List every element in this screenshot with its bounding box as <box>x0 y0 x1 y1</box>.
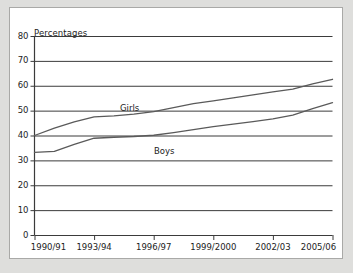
data-series-group <box>35 79 333 152</box>
x-axis-tick-label: 1993/94 <box>76 242 111 252</box>
y-axis-tick-label: 60 <box>9 80 29 90</box>
y-axis-tick-label: 80 <box>9 31 29 41</box>
y-axis-tick-label: 0 <box>9 230 29 240</box>
y-axis-tick-label: 30 <box>9 155 29 165</box>
x-axis-tick-label: 2002/03 <box>255 242 290 252</box>
x-axis-tick-label: 1996/97 <box>136 242 171 252</box>
y-axis-tick-label: 40 <box>9 130 29 140</box>
series-label-boys: Boys <box>154 146 175 156</box>
series-line-girls <box>35 79 333 135</box>
line-chart-svg <box>10 8 344 260</box>
y-axis-tick-label: 70 <box>9 55 29 65</box>
chart-figure-panel: Percentages 01020304050607080 1990/91199… <box>9 7 343 259</box>
chart-plot-area: Percentages 01020304050607080 1990/91199… <box>10 8 344 260</box>
y-axis-tick-label: 10 <box>9 205 29 215</box>
x-axis-tick-label: 1990/91 <box>31 242 66 252</box>
x-axis-tick-label: 2005/06 <box>301 242 336 252</box>
y-axis-tick-label: 20 <box>9 180 29 190</box>
series-line-boys <box>35 103 333 153</box>
gridlines-group <box>35 37 333 236</box>
series-label-girls: Girls <box>120 103 139 113</box>
x-axis-tick-label: 1999/2000 <box>190 242 236 252</box>
y-axis-tick-label: 50 <box>9 105 29 115</box>
